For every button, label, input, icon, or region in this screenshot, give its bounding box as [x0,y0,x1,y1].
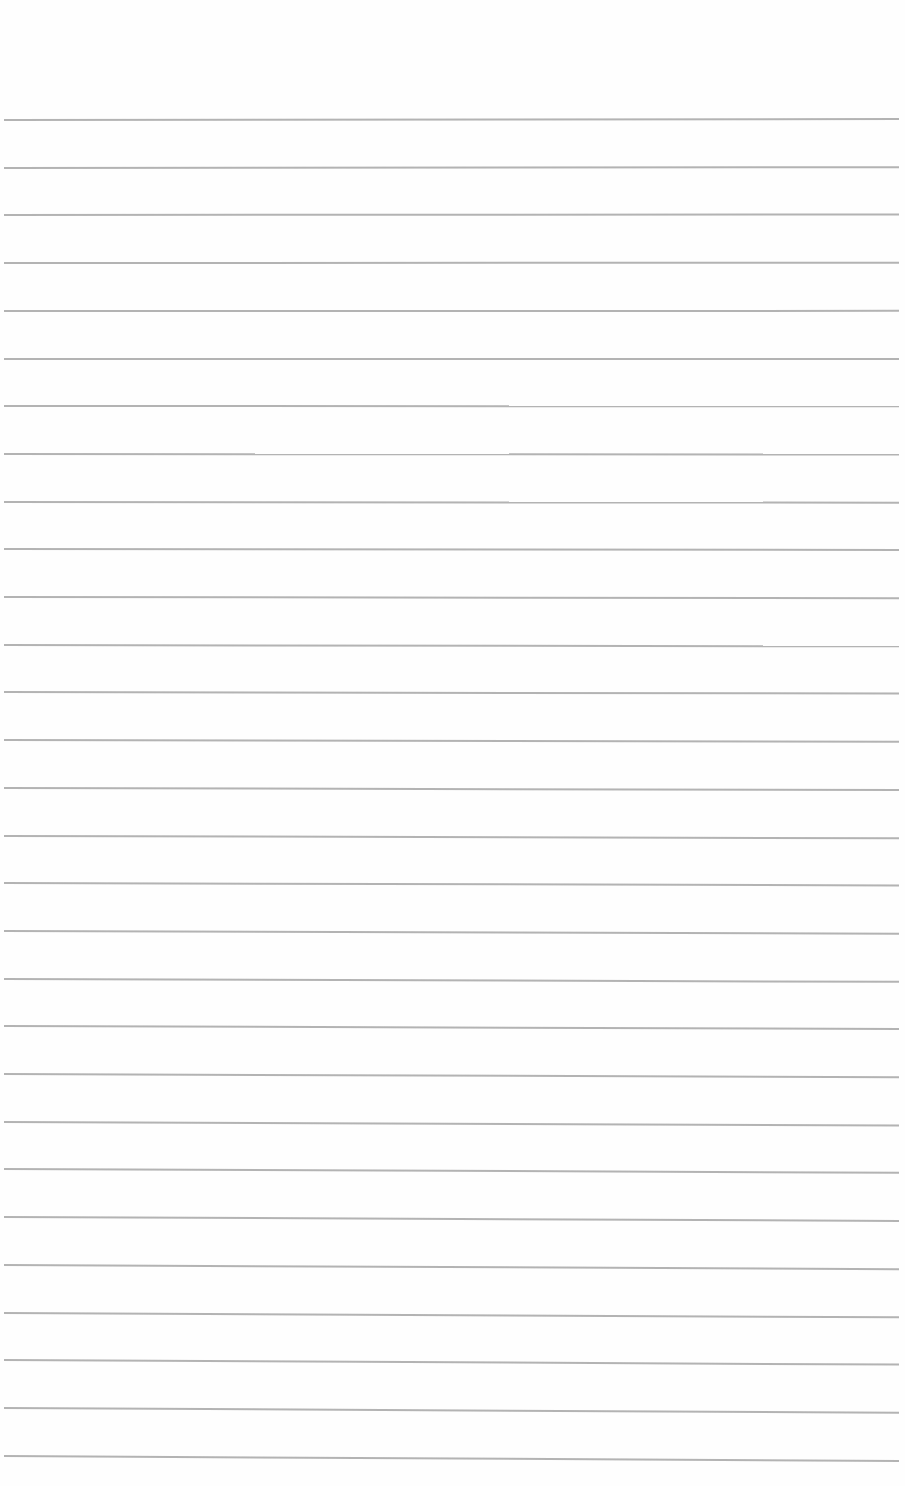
ruled-line [4,1025,899,1030]
ruled-line [4,1168,899,1174]
ruled-line [4,1073,899,1078]
ruled-line [4,596,899,599]
lined-paper-sheet [0,0,905,1486]
ruled-line [4,1455,899,1462]
ruled-line [4,739,899,743]
ruled-line [4,453,899,455]
ruled-line [4,405,899,407]
ruled-line [4,787,899,791]
ruled-line [4,1359,899,1366]
ruled-line [4,214,899,217]
ruled-line [4,691,899,695]
ruled-line [4,310,899,312]
ruled-line [4,501,899,504]
ruled-line [4,978,899,983]
ruled-line [4,1312,899,1318]
ruled-line [4,1407,899,1414]
ruled-line [4,358,899,360]
ruled-line [4,1216,899,1222]
ruled-line [4,882,899,886]
ruled-line [4,262,899,264]
ruled-line [4,1264,899,1270]
ruled-line [4,1121,899,1126]
ruled-line [4,835,899,839]
ruled-line [4,166,899,169]
ruled-line [4,548,899,551]
ruled-line [4,930,899,935]
ruled-line [4,644,899,647]
ruled-line [4,118,899,121]
